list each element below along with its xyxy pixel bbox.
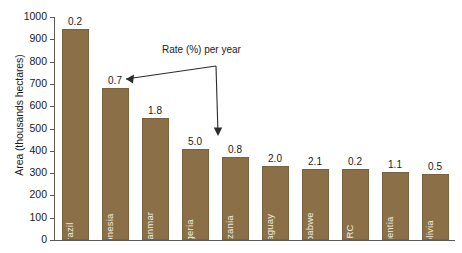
- bar-category-label: Tanzania: [224, 215, 235, 240]
- bar[interactable]: DRC: [342, 169, 369, 240]
- y-tick-label: 300: [29, 166, 47, 178]
- bar-rate-label: 2.0: [268, 154, 282, 164]
- bar-rate-label: 0.2: [348, 157, 362, 167]
- y-tick-label: 1000: [24, 10, 47, 22]
- bar-group[interactable]: 2.0Paraguay: [262, 17, 289, 240]
- bar-category-label: Indonesia: [104, 213, 115, 240]
- bar-group[interactable]: 1.1Argentia: [382, 17, 409, 240]
- bar-category-label: Zimbabwe: [304, 212, 315, 240]
- bar-rate-label: 0.7: [108, 76, 122, 86]
- bar-group[interactable]: 0.5Bolivia: [422, 17, 449, 240]
- bar[interactable]: Tanzania: [222, 157, 249, 240]
- bar-category-label: Bolivia: [424, 220, 435, 240]
- bar[interactable]: Bolivia: [422, 174, 449, 240]
- bar-series: 0.2Brazil0.7Indonesia1.8Mayanmar5.0Niger…: [55, 17, 455, 240]
- y-tick-label: 900: [29, 32, 47, 44]
- bar[interactable]: Paraguay: [262, 166, 289, 240]
- bar-category-label: Brazil: [64, 223, 75, 240]
- y-tick-label: 600: [29, 99, 47, 111]
- y-tick-label: 400: [29, 144, 47, 156]
- deforestation-bar-chart: Area (thousands hectares) 10009008007006…: [0, 0, 462, 253]
- bar-rate-label: 1.1: [388, 160, 402, 170]
- bar-rate-label: 5.0: [188, 137, 202, 147]
- bar[interactable]: Mayanmar: [142, 118, 169, 240]
- bar-rate-label: 0.2: [68, 17, 82, 27]
- bar-rate-label: 0.8: [228, 145, 242, 155]
- y-tick-label: 200: [29, 188, 47, 200]
- bar-group[interactable]: 0.2Brazil: [62, 17, 89, 240]
- bar[interactable]: Argentia: [382, 172, 409, 240]
- y-tick-label: 800: [29, 55, 47, 67]
- bar-category-label: Argentia: [384, 217, 395, 240]
- bar-group[interactable]: 0.2DRC: [342, 17, 369, 240]
- bar-group[interactable]: 2.1Zimbabwe: [302, 17, 329, 240]
- annotation-label: Rate (%) per year: [162, 44, 241, 55]
- plot-area: 10009008007006005004003002001000 0.2Braz…: [55, 17, 455, 240]
- bar-category-label: Nigeria: [184, 219, 195, 240]
- bar-category-label: Mayanmar: [144, 212, 155, 240]
- y-tick-label: 0: [41, 233, 47, 245]
- bar-rate-label: 2.1: [308, 157, 322, 167]
- bar[interactable]: Nigeria: [182, 149, 209, 240]
- y-axis-title: Area (thousands hectares): [13, 10, 25, 220]
- bar-category-label: DRC: [344, 224, 355, 240]
- x-axis-line: [54, 240, 455, 241]
- y-tick-label: 700: [29, 77, 47, 89]
- bar-category-label: Paraguay: [264, 214, 275, 240]
- bar[interactable]: Indonesia: [102, 88, 129, 240]
- bar[interactable]: Brazil: [62, 29, 89, 240]
- bar-group[interactable]: 0.7Indonesia: [102, 17, 129, 240]
- bar[interactable]: Zimbabwe: [302, 169, 329, 240]
- y-tick-label: 100: [29, 211, 47, 223]
- y-tick-label: 500: [29, 122, 47, 134]
- bar-rate-label: 1.8: [148, 106, 162, 116]
- y-tick-mark: [50, 240, 55, 241]
- bar-rate-label: 0.5: [428, 162, 442, 172]
